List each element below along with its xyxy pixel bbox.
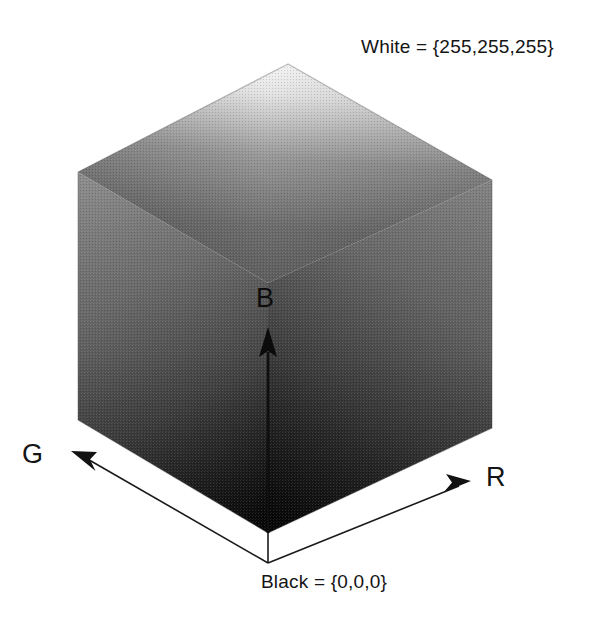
black-corner-label: Black = {0,0,0} [261,571,387,592]
green-axis-arrowhead [71,451,97,471]
red-axis-label: R [486,462,506,492]
rgb-color-cube-figure: White = {255,255,255} Black = {0,0,0} G … [0,0,594,619]
green-axis-label: G [22,439,43,469]
white-corner-label: White = {255,255,255} [361,36,554,57]
blue-axis-label: B [256,283,274,313]
red-axis-arrowhead [444,474,471,492]
cube-body [78,64,492,533]
cube-diagram-canvas: White = {255,255,255} Black = {0,0,0} G … [0,0,594,619]
